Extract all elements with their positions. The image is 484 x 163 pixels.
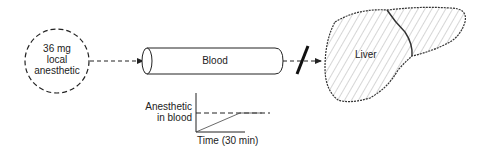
blood-label: Blood xyxy=(185,55,245,66)
graph-xlabel: Time (30 min) xyxy=(197,135,258,146)
graph-ylabel: Anesthetic in blood xyxy=(140,101,192,123)
source-drug: anesthetic xyxy=(27,65,87,76)
liver-label: Liver xyxy=(355,49,377,60)
source-type: local xyxy=(27,54,87,65)
liver-organ xyxy=(325,7,465,101)
source-label: 36 mg local anesthetic xyxy=(27,43,87,76)
concentration-curve xyxy=(196,113,262,132)
ylabel-line2: in blood xyxy=(140,112,192,123)
block-slash-icon xyxy=(297,46,308,74)
ylabel-line1: Anesthetic xyxy=(140,101,192,112)
source-dose: 36 mg xyxy=(27,43,87,54)
inset-graph xyxy=(196,93,270,132)
